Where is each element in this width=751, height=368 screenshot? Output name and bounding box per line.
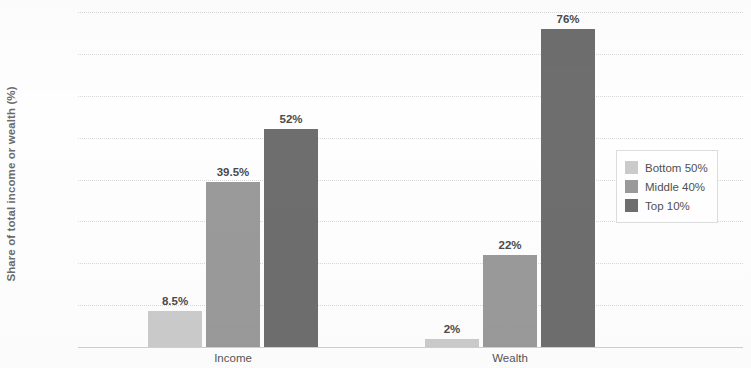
gridline — [78, 263, 743, 264]
legend-swatch-icon — [625, 180, 638, 193]
legend-item: Bottom 50% — [625, 158, 708, 177]
legend-swatch-icon — [625, 161, 638, 174]
bar: 8.5% — [148, 311, 202, 347]
legend-item-label: Bottom 50% — [645, 162, 708, 174]
bar-chart: Share of total income or wealth (%) 0%10… — [0, 0, 751, 368]
bar-value-label: 8.5% — [162, 295, 188, 307]
bar: 2% — [425, 339, 479, 347]
y-axis-title: Share of total income or wealth (%) — [0, 0, 22, 368]
legend: Bottom 50%Middle 40%Top 10% — [616, 150, 718, 223]
legend-item-label: Middle 40% — [645, 181, 705, 193]
legend-item: Middle 40% — [625, 177, 708, 196]
gridline — [78, 347, 743, 348]
legend-item: Top 10% — [625, 196, 708, 215]
gridline — [78, 12, 743, 13]
bar-value-label: 2% — [444, 323, 461, 335]
gridline — [78, 138, 743, 139]
bar-value-label: 52% — [279, 113, 302, 125]
bar-value-label: 22% — [498, 239, 521, 251]
legend-swatch-icon — [625, 199, 638, 212]
x-axis-category-label: Income — [214, 352, 252, 364]
bar: 22% — [483, 255, 537, 347]
gridline — [78, 96, 743, 97]
bar: 52% — [264, 129, 318, 347]
x-axis-category-label: Wealth — [492, 352, 528, 364]
bar-value-label: 76% — [556, 13, 579, 25]
bar: 76% — [541, 29, 595, 347]
gridline — [78, 54, 743, 55]
bar: 39.5% — [206, 182, 260, 347]
legend-item-label: Top 10% — [645, 200, 690, 212]
bar-value-label: 39.5% — [217, 166, 250, 178]
